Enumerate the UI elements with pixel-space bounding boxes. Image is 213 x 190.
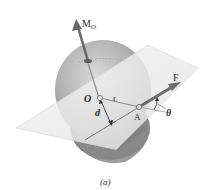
point-O	[97, 95, 102, 100]
label-A: A	[134, 112, 141, 122]
moment-arrow-base	[84, 59, 92, 63]
moment-diagram: MO O r d A F θ (a)	[0, 0, 213, 190]
label-theta: θ	[166, 107, 172, 118]
label-origin: O	[84, 93, 91, 104]
label-F: F	[173, 72, 179, 83]
label-moment: MO	[82, 18, 96, 31]
moment-arrow-head	[72, 19, 82, 31]
point-A	[136, 104, 141, 109]
figure-caption: (a)	[100, 177, 111, 187]
label-r: r	[113, 93, 116, 103]
